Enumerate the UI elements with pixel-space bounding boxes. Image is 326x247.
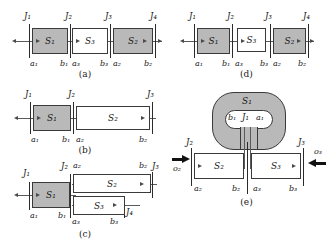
panel-c: J₁ J₂ J₃ J₄ S₁ S₂ S₃ a₁ b₁ a₂ b₂ a₃ b₃ (… bbox=[0, 160, 170, 247]
endpoint-label-b3-d: b₃ bbox=[260, 60, 268, 68]
junction-label-j1-d: J₁ bbox=[189, 12, 196, 21]
junction-label-j2-b: J₂ bbox=[68, 90, 75, 99]
junction-bar-j2-e bbox=[191, 148, 192, 186]
endpoint-label-b2-b: b₂ bbox=[139, 136, 147, 144]
junction-label-j2-a: J₂ bbox=[65, 12, 72, 21]
inner-arrow-s2-b bbox=[141, 116, 145, 120]
junction-bar-j1-d bbox=[194, 24, 195, 58]
arrowhead-left-b bbox=[14, 116, 18, 120]
panel-caption-c: (c) bbox=[0, 230, 170, 239]
endpoint-label-b3-a: b₃ bbox=[100, 60, 108, 68]
endpoint-label-a2-e: a₂ bbox=[194, 185, 202, 193]
arrowhead-left-d bbox=[180, 39, 184, 43]
panel-caption-e: (e) bbox=[170, 198, 323, 207]
junction-label-j3-b: J₃ bbox=[147, 90, 154, 99]
junction-bar-j3-e bbox=[303, 148, 304, 186]
junction-label-j1-b: J₁ bbox=[25, 90, 32, 99]
input-label-o3-e: o₃ bbox=[314, 148, 322, 156]
junction-label-j4-a: J₄ bbox=[150, 12, 157, 21]
inner-arrow-s2-e bbox=[198, 164, 202, 168]
endpoint-label-b1-a: b₁ bbox=[60, 60, 68, 68]
panel-d: J₁ J₂ J₃ J₄ S₁ S₃ S₂ a₁ b₁ a₃ b₃ a₂ b₂ (… bbox=[170, 0, 323, 82]
inner-arrow-s3-e bbox=[292, 164, 296, 168]
endpoint-label-a2-b: a₂ bbox=[76, 136, 84, 144]
panel-a: J₁ J₂ J₃ J₄ S₁ S₃ S₂ a₁ b₁ a₃ b₃ a₂ b₂ (… bbox=[0, 0, 170, 82]
endpoint-label-a3-a: a₃ bbox=[72, 60, 80, 68]
junction-bar-j2-a bbox=[70, 24, 71, 58]
endpoint-label-b2-d: b₂ bbox=[298, 60, 306, 68]
segment-s2-d: S₂ bbox=[273, 28, 306, 54]
segment-label-s2-c: S₂ bbox=[74, 179, 150, 188]
inner-arrow-s1-a bbox=[36, 39, 40, 43]
endpoint-label-a1-a: a₁ bbox=[30, 60, 38, 68]
segment-s3-c: S₃ bbox=[73, 196, 125, 215]
junction-bar-j1-b bbox=[30, 102, 31, 134]
junction-bar-j3-a bbox=[110, 24, 111, 58]
junction-bar-j3-d bbox=[270, 24, 271, 58]
junction-label-j4-c: J₄ bbox=[126, 208, 133, 217]
endpoint-label-a1-c: a₁ bbox=[30, 212, 38, 220]
arrowhead-right-a bbox=[158, 39, 162, 43]
inner-arrow-s1-d bbox=[201, 39, 205, 43]
inner-arrow-s2-d bbox=[297, 39, 301, 43]
endpoint-label-b1-e: b₁ bbox=[228, 114, 236, 122]
input-arrow-o3-e bbox=[308, 159, 316, 167]
endpoint-label-b1-d: b₁ bbox=[222, 60, 230, 68]
endpoint-label-a3-e: a₃ bbox=[253, 185, 261, 193]
junction-label-j3-d: J₃ bbox=[265, 12, 272, 21]
junction-label-j4-d: J₄ bbox=[303, 12, 310, 21]
junction-bar-j1-c bbox=[29, 182, 30, 210]
endpoint-label-b2-e: b₂ bbox=[232, 185, 240, 193]
junction-label-j2-c: J₂ bbox=[61, 162, 68, 171]
connector-line-left-e bbox=[244, 127, 245, 169]
junction-label-j2-d: J₂ bbox=[227, 12, 234, 21]
endpoint-label-b1-b: b₁ bbox=[62, 136, 70, 144]
junction-bar-j4-a bbox=[155, 24, 156, 58]
endpoint-label-a1-d: a₁ bbox=[195, 60, 203, 68]
endpoint-label-a2-c: a₂ bbox=[73, 162, 81, 170]
input-label-o2-e: o₂ bbox=[173, 165, 181, 173]
junction-bar-j3-c bbox=[152, 172, 153, 198]
endpoint-label-a2-a: a₂ bbox=[113, 60, 121, 68]
junction-label-j2-e: J₂ bbox=[186, 138, 193, 147]
inner-arrow-s1-c bbox=[36, 193, 40, 197]
input-arrow-stem-o2-e bbox=[172, 158, 182, 161]
panel-caption-d: (d) bbox=[170, 70, 323, 79]
endpoint-label-a3-d: a₃ bbox=[235, 60, 243, 68]
inner-arrow-s2-a bbox=[143, 39, 147, 43]
junction-bar-j1-e bbox=[247, 142, 248, 194]
arrowhead-left-c bbox=[14, 193, 18, 197]
junction-bar-j2-d bbox=[232, 24, 233, 58]
endpoint-label-a1-b: a₁ bbox=[31, 136, 39, 144]
junction-bar-j1-a bbox=[29, 24, 30, 58]
inner-arrow-s3-c bbox=[113, 203, 117, 207]
endpoint-label-b2-c: b₂ bbox=[139, 162, 147, 170]
junction-label-j1-e: J₁ bbox=[242, 113, 249, 122]
segment-label-s1-e: S₁ bbox=[242, 97, 252, 106]
arrowhead-right-d bbox=[310, 39, 314, 43]
panel-caption-a: (a) bbox=[0, 70, 170, 79]
connector-stem-e bbox=[240, 127, 258, 149]
endpoint-label-a3-c: a₃ bbox=[72, 218, 80, 226]
inner-arrow-s1-b bbox=[37, 116, 41, 120]
inner-arrow-s3-d bbox=[241, 39, 245, 43]
input-arrow-o2-e bbox=[182, 155, 190, 163]
endpoint-label-b1-c: b₁ bbox=[58, 212, 66, 220]
inner-arrow-s3-a bbox=[76, 39, 80, 43]
junction-bar-j4-d bbox=[308, 24, 309, 58]
arrowhead-left-a bbox=[12, 39, 16, 43]
junction-label-j3-c: J₃ bbox=[152, 162, 159, 171]
segment-label-s2-b: S₂ bbox=[77, 114, 149, 123]
panel-caption-b: (b) bbox=[0, 146, 170, 155]
endpoint-label-b3-e: b₃ bbox=[289, 185, 297, 193]
junction-label-j1-a: J₁ bbox=[24, 12, 31, 21]
endpoint-label-a2-d: a₂ bbox=[273, 60, 281, 68]
junction-label-j3-e: J₃ bbox=[298, 138, 305, 147]
panel-e: S₁ b₁ J₁ a₁ J₂ J₃ S₂ S₃ o₂ o₃ a₂ b₂ a₃ b… bbox=[170, 86, 323, 247]
junction-bar-j3-b bbox=[152, 102, 153, 134]
endpoint-label-b2-a: b₂ bbox=[144, 60, 152, 68]
segment-label-s2-e: S₂ bbox=[195, 162, 243, 171]
junction-bar-j2-c bbox=[70, 174, 71, 218]
endpoint-label-b3-c: b₃ bbox=[110, 218, 118, 226]
junction-bar-j2-b bbox=[73, 102, 74, 134]
